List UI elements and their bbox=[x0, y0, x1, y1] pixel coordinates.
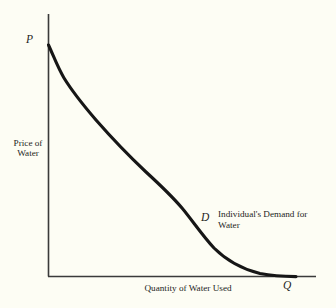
y-axis-title: Price of Water bbox=[8, 138, 48, 159]
demand-curve-path bbox=[49, 45, 297, 277]
demand-curve-figure: P Q D Price of Water Quantity of Water U… bbox=[0, 0, 336, 308]
plot-area bbox=[0, 0, 336, 308]
demand-curve-marker-label: D bbox=[201, 211, 210, 224]
x-axis-title: Quantity of Water Used bbox=[123, 283, 253, 293]
y-axis-variable-label: P bbox=[26, 33, 33, 46]
demand-curve-legend-text: Individual's Demand for Water bbox=[218, 209, 330, 231]
x-axis-variable-label: Q bbox=[283, 279, 292, 292]
